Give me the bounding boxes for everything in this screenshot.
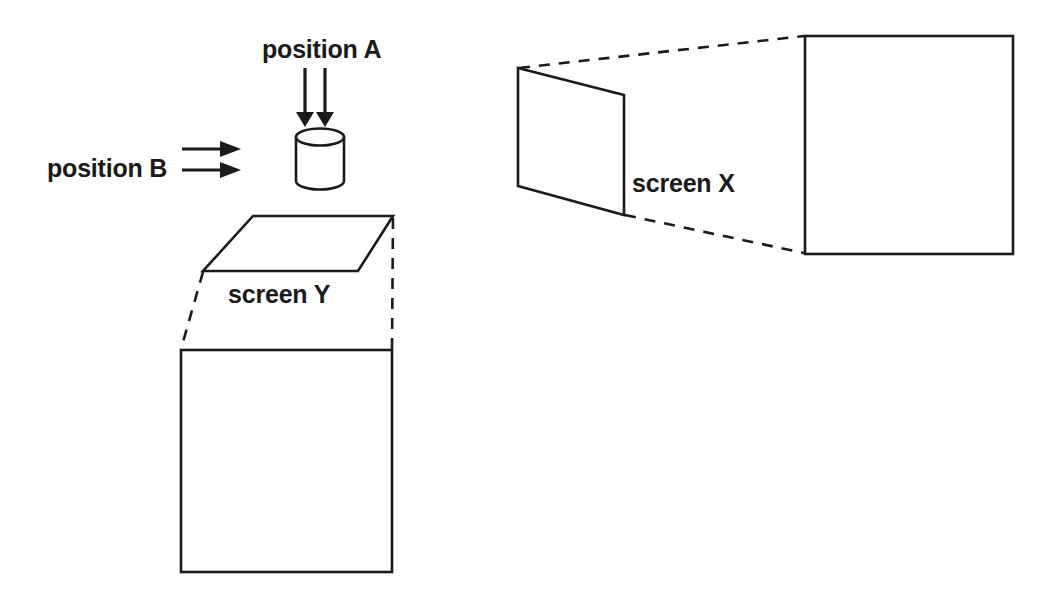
- screen-x-connector-bottom: [625, 215, 804, 253]
- screen-y-connector-right: [392, 218, 393, 349]
- screen-y-connector-left: [181, 272, 203, 349]
- screen-x-projection-square: [805, 36, 1013, 254]
- position-a-arrowhead-2: [316, 112, 334, 127]
- screen-x-connector-top: [519, 36, 804, 68]
- screen-x-trapezoid: [518, 68, 624, 215]
- position-b-arrowhead-2: [220, 162, 241, 178]
- cylinder-top-ellipse: [296, 129, 344, 146]
- position-b-arrows: [182, 141, 241, 178]
- screen-x-label: screen X: [632, 169, 735, 197]
- position-a-arrowhead-1: [296, 112, 314, 127]
- position-b-arrowhead-1: [220, 141, 241, 157]
- position-b-label: position B: [47, 154, 167, 182]
- projection-diagram: position A position B: [0, 0, 1054, 598]
- position-a-label: position A: [262, 35, 381, 63]
- diagram-canvas: position A position B: [0, 0, 1054, 598]
- right-group: screen X: [518, 36, 1013, 254]
- screen-y-parallelogram: [203, 216, 393, 271]
- screen-y-projection-square: [181, 350, 392, 572]
- cylinder-object: [296, 129, 344, 190]
- left-group: position A position B: [47, 35, 393, 572]
- screen-y-label: screen Y: [228, 280, 331, 308]
- position-a-arrows: [296, 68, 334, 127]
